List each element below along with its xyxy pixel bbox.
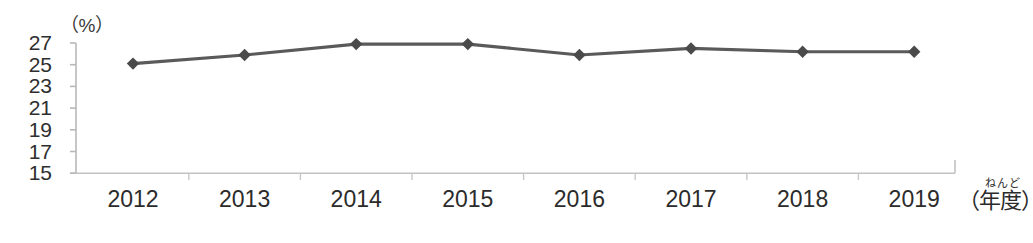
data-point-marker [685, 42, 697, 54]
data-point-markers [127, 38, 921, 70]
data-line-series [133, 44, 914, 64]
x-axis-title-main: （年度） [958, 189, 1033, 212]
x-tick-label: 2014 [331, 186, 382, 213]
data-point-marker [908, 45, 920, 57]
axis-lines [70, 43, 955, 174]
data-point-marker [796, 45, 808, 57]
data-point-marker [350, 38, 362, 50]
x-tick-label: 2018 [777, 186, 828, 213]
x-axis-title: ねんど （年度） [958, 178, 1033, 212]
data-point-marker [127, 57, 139, 69]
x-tick-label: 2012 [107, 186, 158, 213]
data-point-marker [238, 49, 250, 61]
x-tick-label: 2017 [665, 186, 716, 213]
data-point-marker [573, 49, 585, 61]
x-tick-label: 2013 [219, 186, 270, 213]
y-axis-ticks [70, 43, 76, 173]
x-tick-label: 2016 [554, 186, 605, 213]
data-point-marker [462, 38, 474, 50]
x-tick-label: 2015 [442, 186, 493, 213]
x-axis-ticks [189, 173, 859, 180]
x-tick-label: 2019 [889, 186, 940, 213]
